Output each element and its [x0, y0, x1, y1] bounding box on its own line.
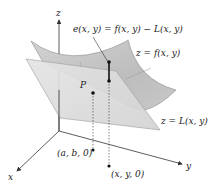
- linear-approximation-diagram: z x y e(x, y) = f(x, y) − L(x, y) z = f(…: [0, 0, 210, 185]
- z-axis-label: z: [55, 8, 61, 18]
- x-axis-label: x: [8, 172, 13, 182]
- point-p-label: P: [79, 80, 87, 90]
- surface-label: z = f(x, y): [135, 48, 181, 58]
- point-L: [107, 79, 111, 83]
- point-xy0: [107, 164, 110, 167]
- plane-label: z = L(x, y): [160, 116, 208, 126]
- error-label: e(x, y) = f(x, y) − L(x, y): [73, 24, 183, 34]
- point-ab0-label: (a, b, 0): [57, 148, 93, 158]
- point-xy0-label: (x, y, 0): [111, 169, 145, 179]
- point-f: [107, 60, 111, 64]
- point-p: [91, 91, 95, 95]
- y-axis-label: y: [185, 161, 192, 171]
- x-axis: [17, 131, 59, 171]
